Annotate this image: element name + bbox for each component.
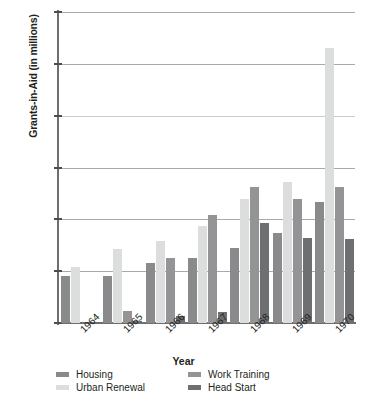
bar-urban-renewal-1968 [240, 199, 249, 323]
legend-label-urban-renewal: Urban Renewal [76, 382, 145, 393]
bar-group-1967 [188, 12, 227, 323]
y-axis-title: Grants-in-Aid (in millions) [27, 0, 39, 166]
legend-column-left: Housing Urban Renewal [56, 368, 145, 394]
legend-swatch-urban-renewal [56, 385, 69, 390]
bar-group-1966 [146, 12, 185, 323]
legend-swatch-housing [56, 372, 69, 377]
bar-work-training-1969 [293, 199, 302, 323]
x-axis-title: Year [0, 355, 367, 367]
bar-group-1970 [315, 12, 354, 323]
bar-head-start-1970 [345, 239, 354, 323]
legend-item-housing: Housing [56, 368, 145, 381]
legend-swatch-work-training [188, 372, 201, 377]
bar-group-1968 [230, 12, 269, 323]
bar-urban-renewal-1970 [325, 48, 334, 323]
legend-swatch-head-start [188, 385, 201, 390]
legend-label-work-training: Work Training [208, 369, 270, 380]
bar-work-training-1966 [166, 258, 175, 323]
bar-work-training-1970 [335, 187, 344, 323]
bar-housing-1967 [188, 258, 197, 323]
bar-chart: Grants-in-Aid (in millions) 020040060080… [0, 0, 367, 398]
legend-item-head-start: Head Start [188, 381, 270, 394]
legend-column-right: Work Training Head Start [188, 368, 270, 394]
bar-group-1969 [273, 12, 312, 323]
bar-urban-renewal-1967 [198, 226, 207, 323]
bar-group-1964 [61, 12, 100, 323]
bar-urban-renewal-1964 [71, 267, 80, 323]
bar-urban-renewal-1965 [113, 249, 122, 323]
bar-urban-renewal-1969 [283, 182, 292, 323]
bar-work-training-1968 [250, 187, 259, 323]
legend-label-housing: Housing [76, 369, 113, 380]
legend-label-head-start: Head Start [208, 382, 256, 393]
bar-group-1965 [103, 12, 142, 323]
plot-area: 020040060080010001200 [58, 12, 355, 323]
legend-item-work-training: Work Training [188, 368, 270, 381]
bar-head-start-1968 [260, 223, 269, 323]
bar-housing-1968 [230, 248, 239, 323]
bar-head-start-1969 [303, 238, 312, 323]
legend-item-urban-renewal: Urban Renewal [56, 381, 145, 394]
bar-housing-1969 [273, 233, 282, 323]
bar-housing-1970 [315, 202, 324, 323]
bar-urban-renewal-1966 [156, 241, 165, 323]
bar-housing-1966 [146, 263, 155, 323]
bar-work-training-1967 [208, 215, 217, 323]
bar-housing-1965 [103, 276, 112, 323]
bar-housing-1964 [61, 276, 70, 323]
